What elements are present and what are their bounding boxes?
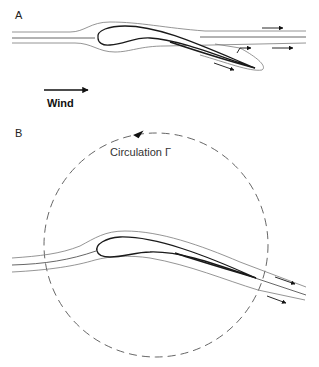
circulation-arrow-icon xyxy=(133,130,145,138)
flow-arrow-icon xyxy=(267,296,286,303)
streamline-lower-a xyxy=(12,43,306,52)
airfoil-a-trailing-edge xyxy=(170,42,255,68)
panel-a-diagram xyxy=(12,22,306,90)
airfoil-lift-figure: A Wind B Circulation Γ xyxy=(0,0,319,367)
streamline-lower-b xyxy=(12,256,305,300)
streamline-middle-b-right xyxy=(255,278,306,295)
panel-a-label: A xyxy=(15,9,22,21)
streamline-upper-b xyxy=(12,231,306,287)
figure-drawing xyxy=(0,0,319,367)
flow-arrow-icon xyxy=(275,277,295,284)
airfoil-b xyxy=(97,237,256,278)
wind-label: Wind xyxy=(47,97,74,109)
circulation-label: Circulation Γ xyxy=(110,146,171,158)
panel-b-label: B xyxy=(15,127,22,139)
trailing-edge-loop-a xyxy=(200,44,263,70)
airfoil-b-trailing-edge xyxy=(175,253,256,278)
panel-b-diagram xyxy=(12,130,306,357)
